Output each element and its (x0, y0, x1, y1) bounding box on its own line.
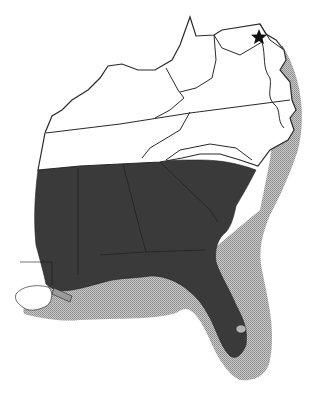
lake-okeechobee (236, 325, 246, 333)
range-map (0, 0, 326, 402)
